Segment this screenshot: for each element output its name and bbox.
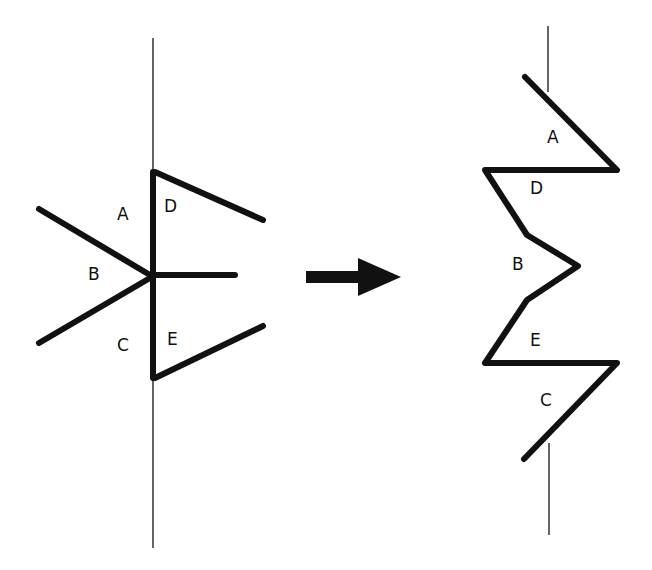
left-label-e: E [167, 329, 178, 349]
left-figure: A B C D E [39, 38, 263, 548]
left-label-b: B [88, 264, 100, 284]
left-label-c: C [117, 335, 129, 355]
right-label-a: A [547, 127, 559, 147]
left-label-d: D [164, 196, 177, 216]
right-label-c: C [540, 390, 552, 410]
left-lower-diagonal [39, 278, 150, 343]
left-label-a: A [117, 204, 129, 224]
right-figure: A D B E C [485, 26, 617, 535]
right-label-d: D [530, 178, 543, 198]
right-label-e: E [530, 330, 541, 350]
diagram-canvas: A B C D E A D B E C [0, 0, 652, 570]
right-label-b: B [512, 254, 524, 274]
transform-arrow-icon [306, 258, 401, 296]
